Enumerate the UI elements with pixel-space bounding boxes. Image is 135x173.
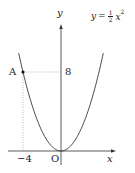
eq-exp: 2: [121, 8, 125, 15]
eq-var: x: [115, 12, 120, 22]
eq-sign: =: [98, 12, 106, 21]
y-axis-label: y: [57, 8, 63, 18]
x-tick-minus-4: −4: [17, 154, 32, 164]
parabola-graph: [0, 0, 135, 173]
point-a: [21, 70, 24, 73]
y-tick-8: 8: [65, 67, 71, 77]
origin-label: O: [51, 154, 59, 164]
y-axis-arrow-icon: [59, 24, 62, 29]
curve-equation-label: y = 1 2 x2: [91, 10, 124, 23]
point-a-label: A: [9, 67, 16, 77]
eq-lhs: y: [91, 12, 96, 21]
eq-denominator: 2: [109, 17, 113, 23]
eq-fraction: 1 2: [108, 10, 114, 23]
x-axis-label: x: [107, 154, 113, 164]
eq-term: x2: [115, 11, 124, 22]
